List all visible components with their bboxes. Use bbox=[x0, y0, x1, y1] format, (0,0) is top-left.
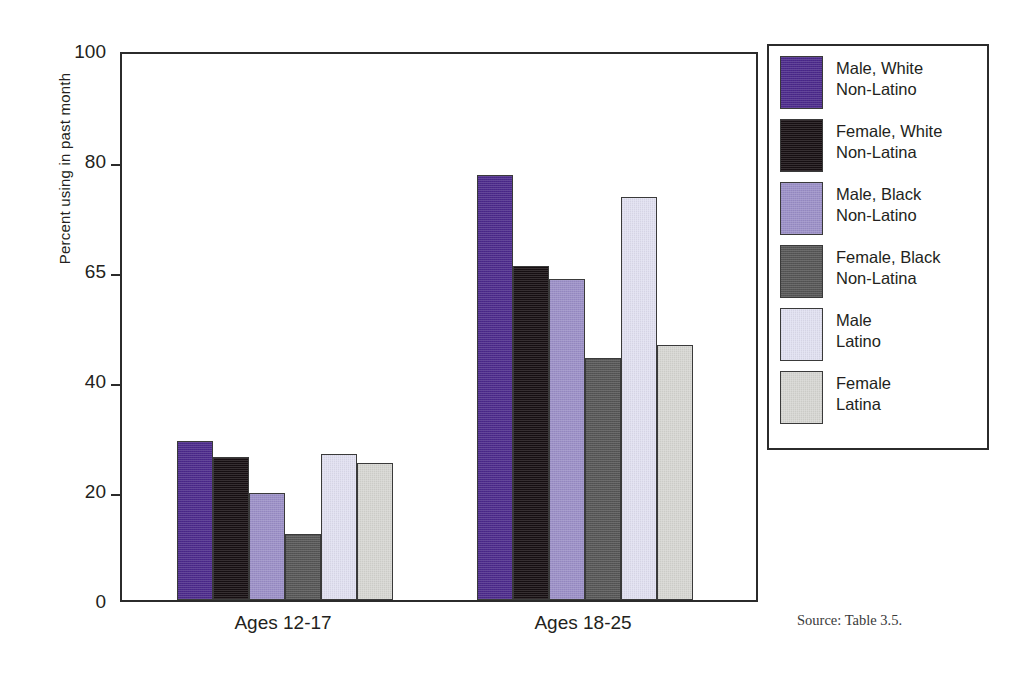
tick-mark bbox=[111, 274, 122, 276]
source-note: Source: Table 3.5. bbox=[797, 612, 902, 629]
legend-item-label: Female, White Non-Latina bbox=[836, 119, 942, 164]
bar[interactable] bbox=[513, 266, 549, 600]
bar[interactable] bbox=[357, 463, 393, 601]
legend-box: Male, White Non-LatinoFemale, White Non-… bbox=[767, 44, 989, 450]
legend-swatch-icon bbox=[780, 182, 823, 235]
y-tick-label: 65 bbox=[48, 262, 106, 281]
bar[interactable] bbox=[477, 175, 513, 600]
y-tick-label: 80 bbox=[48, 152, 106, 171]
legend-item-label: Male Latino bbox=[836, 308, 881, 353]
legend-item-label: Female, Black Non-Latina bbox=[836, 245, 941, 290]
bar[interactable] bbox=[657, 345, 693, 600]
legend-item-label: Male, Black Non-Latino bbox=[836, 182, 921, 227]
legend-swatch-icon bbox=[780, 56, 823, 109]
bar-group-2 bbox=[477, 54, 693, 600]
y-tick-label: 0 bbox=[48, 592, 106, 611]
tick-mark bbox=[111, 164, 122, 166]
y-tick-label: 100 bbox=[48, 42, 106, 61]
plot-area: 100806540200 bbox=[120, 52, 758, 602]
legend-item-4[interactable]: Female, Black Non-Latina bbox=[780, 245, 987, 301]
chart-canvas: Percent using in past month 100806540200… bbox=[0, 0, 1022, 681]
legend-item-3[interactable]: Male, Black Non-Latino bbox=[780, 182, 987, 238]
x-axis-label-1: Ages 12-17 bbox=[175, 612, 391, 634]
bar[interactable] bbox=[585, 358, 621, 600]
legend-item-5[interactable]: Male Latino bbox=[780, 308, 987, 364]
bar[interactable] bbox=[549, 279, 585, 600]
bar[interactable] bbox=[621, 197, 657, 600]
legend-swatch-icon bbox=[780, 245, 823, 298]
legend-item-6[interactable]: Female Latina bbox=[780, 371, 987, 427]
legend-swatch-icon bbox=[780, 119, 823, 172]
y-tick-label: 20 bbox=[48, 482, 106, 501]
x-axis-label-2: Ages 18-25 bbox=[475, 612, 691, 634]
legend-item-1[interactable]: Male, White Non-Latino bbox=[780, 56, 987, 112]
tick-mark bbox=[111, 494, 122, 496]
tick-mark bbox=[111, 384, 122, 386]
y-tick-label: 40 bbox=[48, 372, 106, 391]
bar-group-1 bbox=[177, 54, 393, 600]
legend-swatch-icon bbox=[780, 308, 823, 361]
bar[interactable] bbox=[321, 454, 357, 600]
legend-item-label: Female Latina bbox=[836, 371, 891, 416]
legend-item-label: Male, White Non-Latino bbox=[836, 56, 923, 101]
bar[interactable] bbox=[177, 441, 213, 601]
bar[interactable] bbox=[285, 534, 321, 600]
legend-swatch-icon bbox=[780, 371, 823, 424]
bar[interactable] bbox=[249, 493, 285, 600]
bar[interactable] bbox=[213, 457, 249, 600]
legend-item-2[interactable]: Female, White Non-Latina bbox=[780, 119, 987, 175]
